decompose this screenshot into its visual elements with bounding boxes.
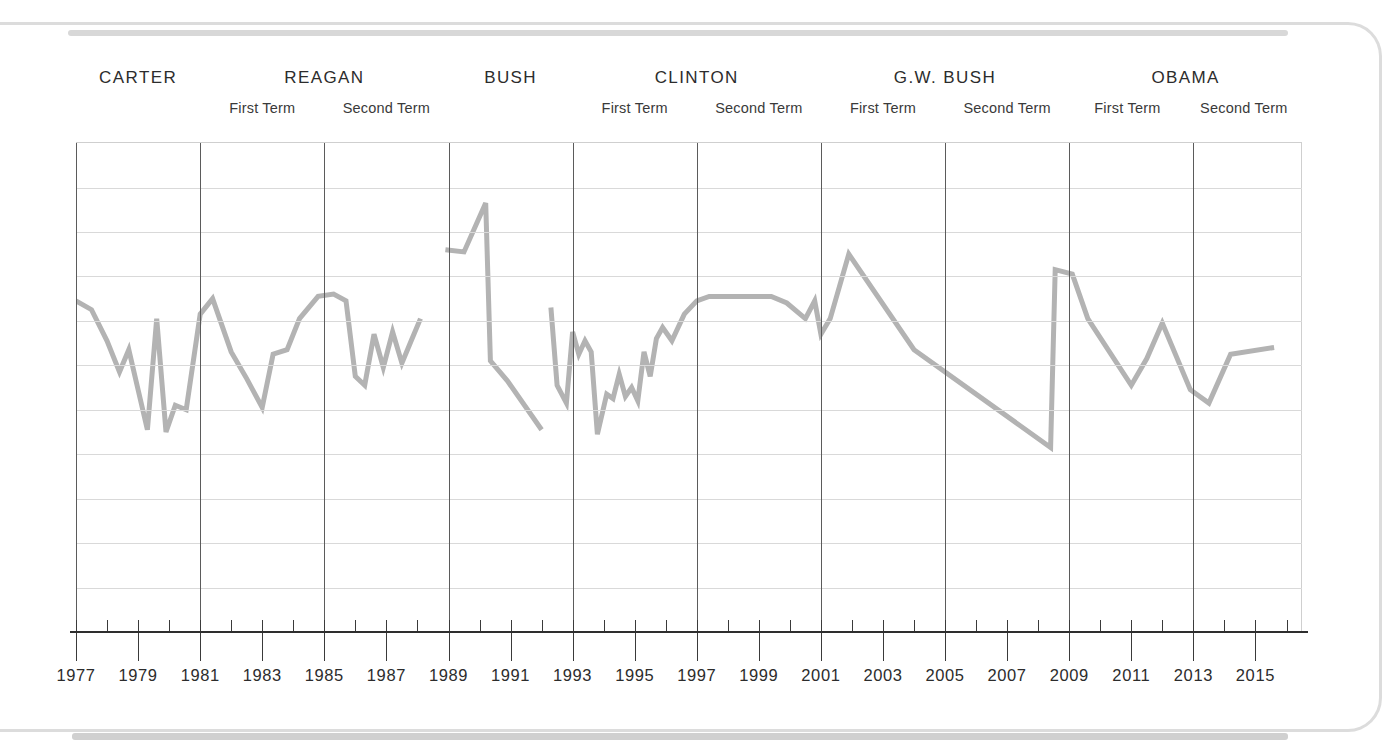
x-axis: 1977197919811983198519871989199119931995… bbox=[70, 631, 1308, 691]
chart-plot-area bbox=[76, 142, 1302, 631]
term-label-row: First TermSecond Term bbox=[573, 100, 821, 116]
term-label: Second Term bbox=[1186, 100, 1302, 116]
x-axis-tick-minor bbox=[76, 620, 77, 631]
term-label-row: First TermSecond Term bbox=[200, 100, 448, 116]
x-axis-year-label: 1983 bbox=[243, 666, 282, 685]
x-axis-tick-major bbox=[262, 633, 263, 661]
x-axis-tick-major bbox=[697, 633, 698, 661]
term-divider-line bbox=[1193, 143, 1194, 632]
term-divider-line bbox=[821, 143, 822, 632]
term-divider-line bbox=[945, 143, 946, 632]
x-axis-tick-minor bbox=[262, 620, 263, 631]
president-block: CARTER bbox=[76, 68, 200, 88]
x-axis-year-label: 1979 bbox=[119, 666, 158, 685]
x-axis-tick-major bbox=[945, 633, 946, 661]
x-axis-tick-minor bbox=[138, 620, 139, 631]
term-divider-line bbox=[324, 143, 325, 632]
x-axis-tick-major bbox=[759, 633, 760, 661]
x-axis-tick-minor bbox=[1100, 620, 1101, 631]
president-header: CARTERREAGANFirst TermSecond TermBUSHCLI… bbox=[76, 68, 1302, 138]
x-axis-year-label: 2013 bbox=[1174, 666, 1213, 685]
president-name: REAGAN bbox=[200, 68, 448, 88]
horizontal-gridline bbox=[76, 543, 1302, 544]
series-segment-bush-hw-spike bbox=[445, 203, 541, 430]
x-axis-tick-major bbox=[386, 633, 387, 661]
x-axis-tick-minor bbox=[1287, 620, 1288, 631]
x-axis-tick-major bbox=[200, 633, 201, 661]
term-label-row: First TermSecond Term bbox=[821, 100, 1069, 116]
x-axis-tick-minor bbox=[1069, 620, 1070, 631]
x-axis-tick-minor bbox=[386, 620, 387, 631]
x-axis-tick-minor bbox=[511, 620, 512, 631]
president-name: G.W. BUSH bbox=[821, 68, 1069, 88]
x-axis-year-label: 1985 bbox=[305, 666, 344, 685]
x-axis-tick-major bbox=[449, 633, 450, 661]
horizontal-gridline bbox=[76, 499, 1302, 500]
term-divider-line bbox=[76, 143, 77, 632]
x-axis-tick-minor bbox=[480, 620, 481, 631]
x-axis-tick-major bbox=[883, 633, 884, 661]
president-block: G.W. BUSHFirst TermSecond Term bbox=[821, 68, 1069, 88]
x-axis-tick-minor bbox=[1038, 620, 1039, 631]
x-axis-year-label: 1999 bbox=[739, 666, 778, 685]
x-axis-tick-minor bbox=[1255, 620, 1256, 631]
x-axis-year-label: 2015 bbox=[1236, 666, 1275, 685]
x-axis-tick-major bbox=[1131, 633, 1132, 661]
x-axis-tick-minor bbox=[790, 620, 791, 631]
x-axis-tick-major bbox=[76, 633, 77, 661]
x-axis-tick-minor bbox=[324, 620, 325, 631]
x-axis-tick-minor bbox=[914, 620, 915, 631]
bottom-decor-bar bbox=[72, 733, 1288, 740]
x-axis-tick-major bbox=[1069, 633, 1070, 661]
x-axis-tick-minor bbox=[200, 620, 201, 631]
x-axis-year-label: 1981 bbox=[181, 666, 220, 685]
term-label-row: First TermSecond Term bbox=[1069, 100, 1302, 116]
x-axis-year-label: 1989 bbox=[429, 666, 468, 685]
x-axis-tick-minor bbox=[417, 620, 418, 631]
x-axis-tick-minor bbox=[293, 620, 294, 631]
x-axis-year-label: 2011 bbox=[1112, 666, 1150, 685]
x-axis-tick-minor bbox=[355, 620, 356, 631]
x-axis-tick-minor bbox=[728, 620, 729, 631]
x-axis-line bbox=[70, 631, 1308, 633]
horizontal-gridline bbox=[76, 588, 1302, 589]
x-axis-year-label: 2009 bbox=[1050, 666, 1089, 685]
x-axis-year-label: 2007 bbox=[988, 666, 1027, 685]
x-axis-tick-minor bbox=[821, 620, 822, 631]
horizontal-gridline bbox=[76, 365, 1302, 366]
horizontal-gridline bbox=[76, 232, 1302, 233]
x-axis-tick-minor bbox=[635, 620, 636, 631]
x-axis-tick-minor bbox=[883, 620, 884, 631]
president-block: OBAMAFirst TermSecond Term bbox=[1069, 68, 1302, 88]
term-label: First Term bbox=[200, 100, 324, 116]
x-axis-tick-minor bbox=[697, 620, 698, 631]
x-axis-tick-major bbox=[573, 633, 574, 661]
x-axis-tick-major bbox=[138, 633, 139, 661]
x-axis-tick-minor bbox=[1131, 620, 1132, 631]
x-axis-tick-major bbox=[1193, 633, 1194, 661]
x-axis-tick-minor bbox=[1193, 620, 1194, 631]
term-divider-line bbox=[449, 143, 450, 632]
x-axis-tick-major bbox=[1007, 633, 1008, 661]
horizontal-gridline bbox=[76, 276, 1302, 277]
x-axis-tick-minor bbox=[449, 620, 450, 631]
x-axis-year-label: 2003 bbox=[863, 666, 902, 685]
series-segment-clinton-through-obama bbox=[551, 254, 1274, 447]
x-axis-tick-minor bbox=[1224, 620, 1225, 631]
x-axis-tick-minor bbox=[169, 620, 170, 631]
term-label: Second Term bbox=[324, 100, 448, 116]
term-divider-line bbox=[1069, 143, 1070, 632]
x-axis-tick-minor bbox=[1007, 620, 1008, 631]
x-axis-year-label: 1991 bbox=[491, 666, 530, 685]
term-divider-line bbox=[697, 143, 698, 632]
x-axis-year-label: 1993 bbox=[553, 666, 592, 685]
term-label: Second Term bbox=[697, 100, 821, 116]
horizontal-gridline bbox=[76, 410, 1302, 411]
x-axis-tick-major bbox=[511, 633, 512, 661]
term-divider-line bbox=[200, 143, 201, 632]
term-divider-line bbox=[573, 143, 574, 632]
x-axis-year-label: 1997 bbox=[677, 666, 716, 685]
x-axis-year-label: 1995 bbox=[615, 666, 654, 685]
x-axis-tick-major bbox=[635, 633, 636, 661]
president-block: BUSH bbox=[449, 68, 573, 88]
